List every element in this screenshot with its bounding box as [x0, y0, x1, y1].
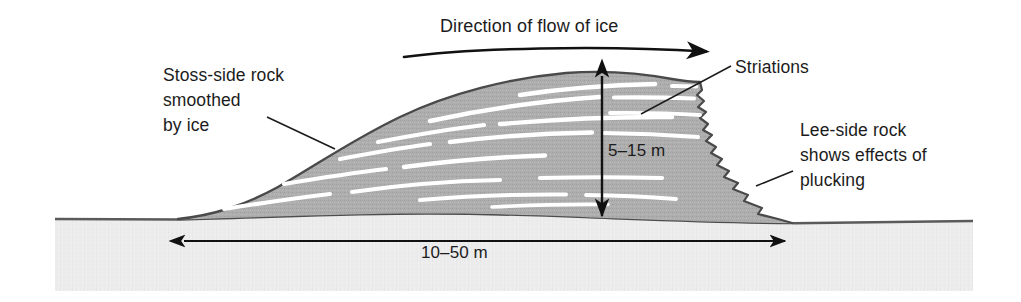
ground-layer: [55, 214, 973, 291]
width-dimension-label: 10–50 m: [421, 240, 488, 265]
flow-direction-label: Direction of flow of ice: [440, 14, 618, 39]
striations-label: Striations: [735, 55, 809, 80]
ground-surface-line: [55, 219, 180, 220]
diagram-canvas: Direction of flow of ice Stoss-side rock…: [0, 0, 1021, 302]
height-dimension-label: 5–15 m: [608, 138, 665, 163]
lee-side-label: Lee-side rock shows effects of plucking: [800, 118, 927, 193]
ground-fill-overlay: [55, 214, 973, 291]
lee-side-leader-line: [756, 171, 793, 186]
stoss-side-label: Stoss-side rock smoothed by ice: [163, 63, 284, 138]
flow-direction-arrow: [404, 48, 706, 57]
